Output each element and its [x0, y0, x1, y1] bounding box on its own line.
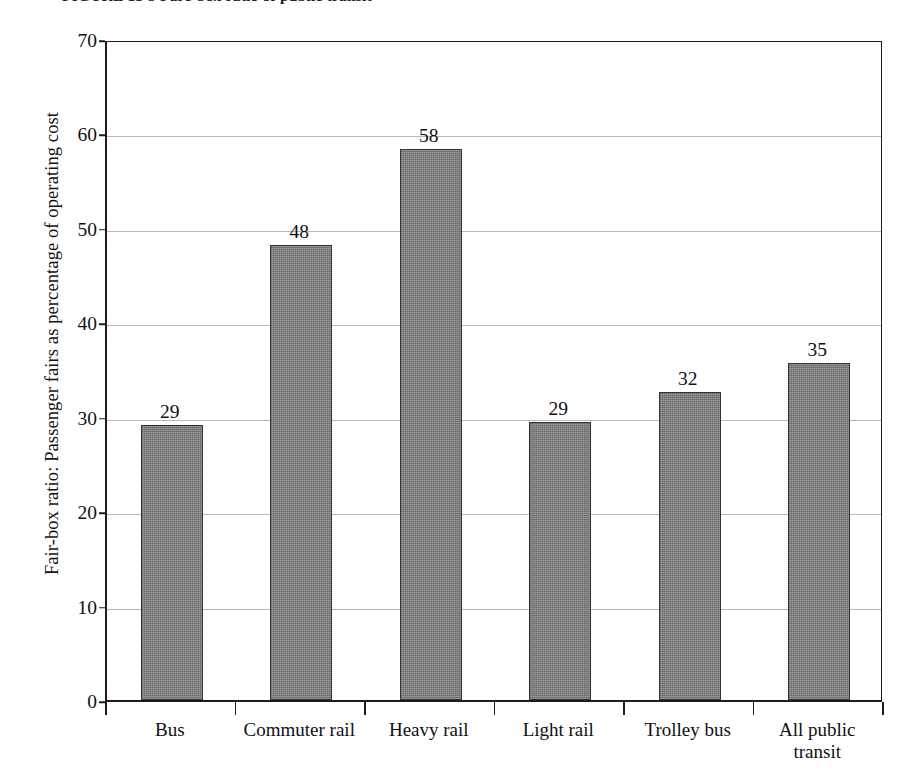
bar-trolley-bus [659, 392, 721, 700]
bar-value-label-heavy-rail: 58 [389, 126, 469, 146]
x-category-label-all-public-transit: All publictransit [753, 719, 883, 763]
bar-commuter-rail [270, 245, 332, 700]
x-category-label-trolley-bus: Trolley bus [623, 719, 753, 741]
gridline-30 [107, 420, 881, 421]
plot-area [105, 41, 882, 702]
bar-bus [141, 425, 203, 700]
gridline-20 [107, 514, 881, 515]
x-tick-mark-4 [623, 702, 625, 715]
x-tick-mark-2 [364, 702, 366, 715]
x-tick-mark-1 [235, 702, 237, 715]
x-category-label-light-rail: Light rail [494, 719, 624, 741]
x-category-line: transit [753, 741, 883, 763]
x-tick-mark-start [105, 702, 107, 715]
y-axis-title: Fair-box ratio: Passenger fairs as perce… [42, 24, 63, 664]
gridline-10 [107, 609, 881, 610]
x-category-line: All public [753, 719, 883, 741]
bar-value-label-bus: 29 [130, 402, 210, 422]
x-category-label-heavy-rail: Heavy rail [364, 719, 494, 741]
bar-value-label-light-rail: 29 [518, 399, 598, 419]
gridline-50 [107, 231, 881, 232]
x-category-line: Light rail [494, 719, 624, 741]
x-category-line: Heavy rail [364, 719, 494, 741]
y-tick-label-70: 70 [55, 31, 97, 51]
x-category-line: Bus [105, 719, 235, 741]
x-tick-mark-end [882, 702, 884, 715]
x-tick-mark-5 [753, 702, 755, 715]
x-category-label-bus: Bus [105, 719, 235, 741]
y-tick-label-20: 20 [55, 503, 97, 523]
x-category-line: Commuter rail [235, 719, 365, 741]
x-category-label-commuter-rail: Commuter rail [235, 719, 365, 741]
bar-heavy-rail [400, 149, 462, 700]
x-category-line: Trolley bus [623, 719, 753, 741]
y-tick-label-50: 50 [55, 220, 97, 240]
gridline-40 [107, 325, 881, 326]
y-tick-label-60: 60 [55, 126, 97, 146]
gridline-60 [107, 136, 881, 137]
y-tick-label-40: 40 [55, 315, 97, 335]
y-tick-label-30: 30 [55, 409, 97, 429]
bar-value-label-commuter-rail: 48 [259, 222, 339, 242]
bar-all-public-transit [788, 363, 850, 700]
bar-value-label-trolley-bus: 32 [648, 369, 728, 389]
y-tick-label-0: 0 [55, 692, 97, 712]
x-tick-mark-3 [494, 702, 496, 715]
bar-value-label-all-public-transit: 35 [777, 340, 857, 360]
y-tick-label-10: 10 [55, 598, 97, 618]
bar-light-rail [529, 422, 591, 700]
bar-chart: Fair-box ratio: Passenger fairs as perce… [0, 0, 908, 769]
